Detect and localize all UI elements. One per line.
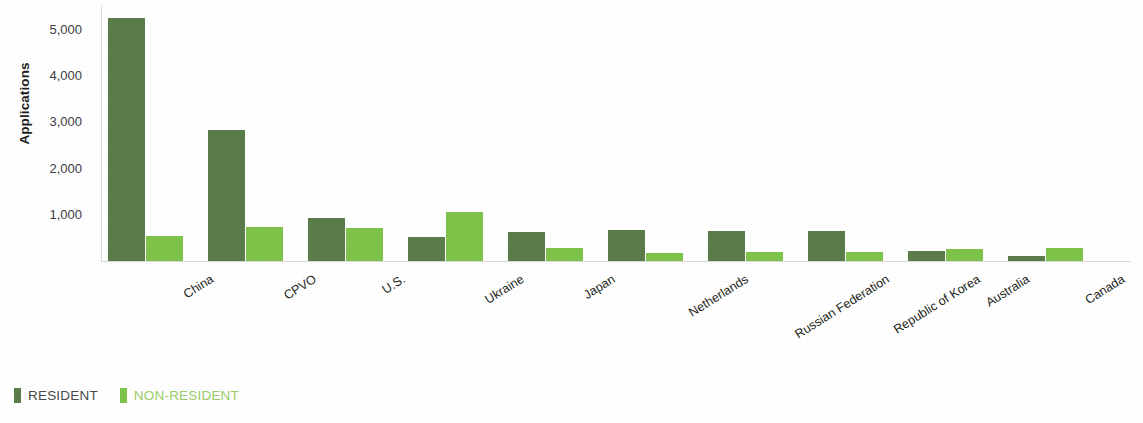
bar-group: [708, 6, 784, 261]
y-axis-tick-label: 5,000: [49, 22, 82, 37]
bar-nonresident: [146, 236, 183, 261]
x-axis-tick-label: CPVO: [281, 272, 318, 303]
x-axis-tick-label: Russian Federation: [792, 272, 891, 341]
bar-group: [508, 6, 584, 261]
bar-nonresident: [646, 253, 683, 261]
bar-resident: [908, 251, 945, 261]
bar-group: [608, 6, 684, 261]
x-axis-tick-label: U.S.: [380, 272, 408, 297]
legend-item[interactable]: NON-RESIDENT: [120, 388, 239, 403]
y-axis-tick-label: 2,000: [49, 161, 82, 176]
bar-group: [808, 6, 884, 261]
x-axis-line: [101, 261, 1131, 262]
bar-nonresident: [346, 228, 383, 261]
bar-resident: [208, 130, 245, 261]
bar-nonresident: [946, 249, 983, 261]
y-axis-line: [101, 6, 102, 262]
y-axis-tick-label: 3,000: [49, 114, 82, 129]
x-axis-tick-label: Japan: [581, 272, 617, 302]
bar-nonresident: [546, 248, 583, 261]
bar-group: [308, 6, 384, 261]
y-axis-tick-label: 1,000: [49, 207, 82, 222]
bar-resident: [808, 231, 845, 261]
x-axis-tick-label: Republic of Korea: [891, 272, 983, 337]
bar-chart: Applications 1,0002,0003,0004,0005,000 C…: [0, 0, 1143, 423]
bar-group: [908, 6, 984, 261]
bar-resident: [708, 231, 745, 261]
bar-resident: [608, 230, 645, 261]
bar-nonresident: [246, 227, 283, 261]
bar-resident: [108, 18, 145, 261]
x-axis-tick-label: Netherlands: [686, 272, 751, 320]
bar-nonresident: [446, 212, 483, 261]
bar-nonresident: [746, 252, 783, 261]
bar-group: [108, 6, 184, 261]
legend-item[interactable]: RESIDENT: [14, 388, 98, 403]
legend-swatch-icon: [120, 388, 127, 403]
bar-resident: [1008, 256, 1045, 261]
bar-resident: [508, 232, 545, 261]
legend-swatch-icon: [14, 388, 21, 403]
bar-group: [208, 6, 284, 261]
legend-label: RESIDENT: [28, 388, 98, 403]
y-axis-tick-label: 4,000: [49, 68, 82, 83]
bar-group: [408, 6, 484, 261]
x-axis-tick-label: China: [181, 272, 216, 301]
y-axis-title: Applications: [17, 34, 32, 174]
bar-resident: [408, 237, 445, 261]
x-axis-tick-label: Canada: [1083, 272, 1128, 307]
x-axis-tick-label: Australia: [983, 272, 1032, 310]
bar-nonresident: [1046, 248, 1083, 261]
chart-legend: RESIDENTNON-RESIDENT: [14, 388, 239, 403]
bar-group: [1008, 6, 1084, 261]
legend-label: NON-RESIDENT: [134, 388, 239, 403]
bar-resident: [308, 218, 345, 261]
plot-area: [101, 6, 1131, 262]
x-axis-tick-label: Ukraine: [483, 272, 527, 307]
bar-nonresident: [846, 252, 883, 261]
